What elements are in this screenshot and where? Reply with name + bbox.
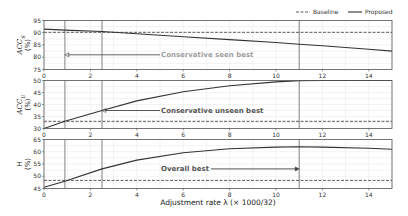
x-tick-label: 14	[365, 131, 373, 138]
y-tick-label: 90	[33, 29, 41, 36]
x-tick-label: 0	[42, 131, 46, 138]
x-tick-label: 14	[365, 72, 373, 79]
x-tick-label: 4	[135, 191, 139, 198]
x-tick-label: 14	[365, 191, 373, 198]
y-tick-label: 50	[33, 172, 41, 179]
x-tick-label: 6	[181, 72, 185, 79]
y-axis-label: H	[16, 161, 24, 166]
x-tick-label: 2	[88, 131, 92, 138]
y-tick-label: 80	[33, 53, 41, 60]
y-tick-label: 60	[33, 148, 41, 155]
annotation-label: Conservative seen best	[161, 51, 254, 59]
x-axis-title: Adjustment rate λ (× 1000/32)	[160, 198, 276, 207]
y-tick-label: 30	[33, 125, 41, 132]
x-tick-label: 0	[42, 72, 46, 79]
x-tick-label: 10	[272, 131, 280, 138]
annotation-label: Overall best	[161, 165, 210, 173]
y-tick-label: 55	[33, 160, 41, 167]
legend-proposed-text: Proposed	[365, 8, 393, 16]
legend: BaselineProposed	[296, 8, 393, 16]
y-tick-label: 50	[33, 77, 41, 84]
x-tick-label: 8	[228, 191, 232, 198]
x-tick-label: 2	[88, 72, 92, 79]
x-tick-label: 2	[88, 191, 92, 198]
x-tick-label: 12	[319, 72, 327, 79]
y-tick-label: 85	[33, 41, 41, 48]
x-tick-label: 8	[228, 131, 232, 138]
series-proposed-line	[44, 147, 392, 188]
panel-bottom: 455055606502468101214H(%)Overall best	[16, 136, 392, 198]
y-axis-unit: (%)	[24, 158, 32, 170]
chart-figure: 758085909502468101214ACCS(%)Conservative…	[0, 0, 408, 216]
chart-canvas: 758085909502468101214ACCS(%)Conservative…	[0, 0, 408, 216]
x-tick-label: 4	[135, 72, 139, 79]
y-tick-label: 45	[33, 89, 41, 96]
x-tick-label: 6	[181, 131, 185, 138]
legend-baseline-text: Baseline	[313, 8, 339, 15]
x-tick-label: 12	[319, 191, 327, 198]
x-tick-label: 4	[135, 131, 139, 138]
x-tick-label: 8	[228, 72, 232, 79]
x-tick-label: 10	[272, 191, 280, 198]
y-tick-label: 45	[33, 185, 41, 192]
y-tick-label: 35	[33, 113, 41, 120]
x-tick-label: 12	[319, 131, 327, 138]
x-tick-label: 6	[181, 191, 185, 198]
annotation-label: Conservative unseen best	[161, 107, 264, 115]
y-tick-label: 40	[33, 101, 41, 108]
y-axis-unit: (%)	[24, 98, 32, 110]
panel-top: 758085909502468101214ACCS(%)Conservative…	[16, 17, 392, 79]
y-tick-label: 65	[33, 136, 41, 143]
y-tick-label: 75	[33, 66, 41, 73]
y-axis-unit: (%)	[24, 39, 32, 51]
x-tick-label: 10	[272, 72, 280, 79]
x-tick-label: 0	[42, 191, 46, 198]
y-tick-label: 95	[33, 17, 41, 24]
panel-middle: 303540455002468101214ACCU(%)Conservative…	[16, 77, 392, 138]
